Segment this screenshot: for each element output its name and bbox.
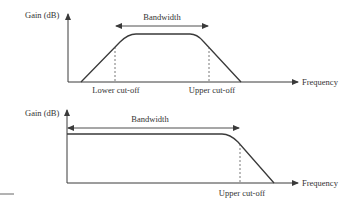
- bottom-upper-cutoff-label: Upper cut-off: [219, 188, 266, 198]
- bottom-x-axis-label: Frequency: [302, 178, 339, 188]
- bottom-y-axis-label: Gain (dB): [25, 108, 59, 118]
- top-panel-bandpass: Gain (dB) Frequency Bandwidth Lower cut-…: [25, 10, 339, 95]
- top-bandwidth-label: Bandwidth: [143, 12, 181, 22]
- top-x-axis-label: Frequency: [302, 77, 339, 87]
- frequency-response-diagram: Gain (dB) Frequency Bandwidth Lower cut-…: [0, 0, 357, 203]
- bottom-response-curve: [67, 134, 274, 183]
- lower-cutoff-label: Lower cut-off: [92, 85, 139, 95]
- top-upper-cutoff-label: Upper cut-off: [189, 85, 236, 95]
- top-response-curve: [81, 34, 241, 82]
- bottom-panel-lowpass: Gain (dB) Frequency Bandwidth Upper cut-…: [25, 108, 339, 198]
- bottom-bandwidth-label: Bandwidth: [131, 114, 169, 124]
- top-y-axis-label: Gain (dB): [25, 10, 59, 20]
